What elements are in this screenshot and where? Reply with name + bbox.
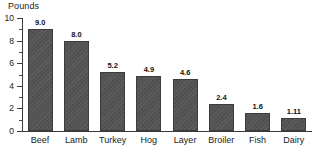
- bar-group: 1.6: [245, 18, 270, 131]
- y-axis-tick-label: 8: [0, 37, 14, 46]
- bar: [173, 79, 198, 131]
- bar-value-label: 9.0: [20, 19, 61, 27]
- x-axis-category-label: Broiler: [203, 134, 239, 146]
- bar-value-label: 8.0: [56, 31, 97, 39]
- bar: [28, 29, 53, 131]
- bar-value-label: 5.2: [92, 62, 133, 70]
- bar: [64, 41, 89, 131]
- bar-value-label: 4.6: [165, 69, 206, 77]
- y-axis-tick-major: [17, 131, 23, 132]
- bar-group: 8.0: [64, 18, 89, 131]
- x-axis-category-label: Lamb: [58, 134, 94, 146]
- x-axis-category-label: Turkey: [95, 134, 131, 146]
- x-axis-category-label: Dairy: [276, 134, 312, 146]
- y-axis-tick-label: 6: [0, 59, 14, 68]
- bar-value-label: 1.11: [273, 108, 314, 116]
- bar-series: 9.08.05.24.94.62.41.61.11: [22, 18, 312, 131]
- bar-group: 4.6: [173, 18, 198, 131]
- y-axis-title: Pounds: [8, 1, 39, 12]
- x-axis-labels: BeefLambTurkeyHogLayerBroilerFishDairy: [22, 134, 312, 150]
- y-axis-tick-label: 2: [0, 104, 14, 113]
- bar-value-label: 4.9: [128, 66, 169, 74]
- bar: [281, 118, 306, 131]
- bar-group: 9.0: [28, 18, 53, 131]
- bar-value-label: 2.4: [201, 94, 242, 102]
- y-axis-tick-label: 10: [0, 14, 14, 23]
- bar-group: 4.9: [136, 18, 161, 131]
- y-axis-tick-label: 4: [0, 82, 14, 91]
- x-axis-category-label: Beef: [22, 134, 58, 146]
- bar-group: 2.4: [209, 18, 234, 131]
- bar: [136, 76, 161, 131]
- x-axis-category-label: Layer: [167, 134, 203, 146]
- x-axis-line: [22, 131, 312, 132]
- bar-group: 1.11: [281, 18, 306, 131]
- bar-group: 5.2: [100, 18, 125, 131]
- x-axis-category-label: Fish: [240, 134, 276, 146]
- bar-value-label: 1.6: [237, 103, 278, 111]
- bar: [245, 113, 270, 131]
- bar: [209, 104, 234, 131]
- bar: [100, 72, 125, 131]
- y-axis-tick-label: 0: [0, 127, 14, 136]
- x-axis-category-label: Hog: [131, 134, 167, 146]
- bar-chart: Pounds 0246810 9.08.05.24.94.62.41.61.11…: [0, 0, 316, 153]
